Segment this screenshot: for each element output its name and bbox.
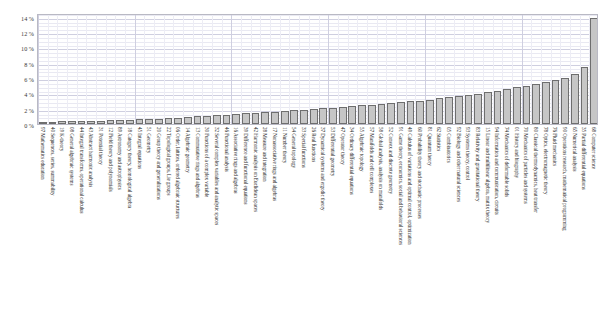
x-axis-tick: 51 Geometry (143, 127, 153, 320)
bar (261, 112, 269, 124)
x-axis-tick: 32 Several complex variables and analyti… (211, 127, 221, 320)
x-axis-tick: 68 Computer science (588, 127, 598, 320)
bar (552, 80, 560, 124)
bar (561, 78, 569, 124)
x-axis-tick: 20 Group theory and generalizations (153, 127, 163, 320)
x-axis-tick-label: 20 Group theory and generalizations (155, 127, 160, 200)
bar (339, 107, 347, 124)
bar (542, 82, 550, 124)
x-axis-tick: 06 Order, lattices, ordered algebraic st… (172, 127, 182, 320)
x-axis-tick: 26 Real functions (308, 127, 318, 320)
x-axis-tick-label: 94 Information and communication, circui… (494, 127, 499, 215)
x-axis-tick: 94 Information and communication, circui… (492, 127, 502, 320)
bar (523, 86, 531, 124)
bar (329, 108, 337, 124)
x-axis-tick-label: 80 Classical thermodynamics, heat transf… (532, 127, 537, 213)
x-axis-tick-label: 17 Nonassociative rings and algebras (271, 127, 276, 201)
x-axis-tick: 39 Difference and functional equations (240, 127, 250, 320)
bar (232, 114, 240, 124)
plot-area (37, 14, 598, 125)
x-axis-tick-label: 51 Geometry (146, 127, 151, 153)
x-axis-tick-label: 28 Measure and integration (262, 127, 267, 182)
bar (290, 110, 298, 124)
x-axis-tick-label: 83 Relativity and gravitational theory (474, 127, 479, 202)
bar (484, 92, 492, 124)
y-axis-tick-label: 0 % (24, 122, 34, 129)
y-axis-tick-label: 6 % (24, 76, 34, 83)
x-axis-tick: 89 Astronomy and astrophysics (114, 127, 124, 320)
y-axis: 0 %2 %4 %6 %8 %10 %12 %14 % (0, 0, 37, 139)
x-axis-tick-label: 43 Abstract harmonic analysis (87, 127, 92, 187)
bar (155, 119, 163, 125)
x-axis-tick-label: 57 Manifolds and cell complexes (368, 127, 373, 193)
bar (474, 94, 482, 124)
x-axis-tick: 15 Linear and multilinear algebra, matri… (482, 127, 492, 320)
x-axis-tick: 47 Operator theory (337, 127, 347, 320)
x-axis-tick: 43 Abstract harmonic analysis (85, 127, 95, 320)
x-axis-tick-label: 08 General algebraic systems (68, 127, 73, 185)
x-axis-tick: 11 Number theory (279, 127, 289, 320)
x-axis-tick-label: 53 Differential geometry (329, 127, 334, 176)
bar (445, 97, 453, 124)
x-axis-tick: 30 Functions of a complex variable (201, 127, 211, 320)
x-axis-tick-label: 13 Commutative rings and algebras (194, 127, 199, 198)
bar (407, 101, 415, 124)
bar (455, 96, 463, 124)
x-axis-tick-label: 54 General topology (291, 127, 296, 168)
bar (532, 84, 540, 124)
x-axis-tick-label: 49 Calculus of variations and optimal co… (407, 127, 412, 245)
x-axis-tick-label: 18 Category theory, homological algebra (126, 127, 131, 208)
x-axis-tick-label: 15 Linear and multilinear algebra, matri… (484, 127, 489, 223)
x-axis-tick-label: 46 Functional analysis (223, 127, 228, 172)
x-axis-tick: 18 Category theory, homological algebra (124, 127, 134, 320)
x-axis-tick: 53 Differential geometry (327, 127, 337, 320)
x-axis-tick: 92 Biology and other natural sciences (453, 127, 463, 320)
x-axis-tick: 34 Ordinary differential equations (347, 127, 357, 320)
x-axis-tick-label: 74 Mechanics of deformable solids (503, 127, 508, 197)
bar (465, 95, 473, 124)
x-axis-tick-label: 81 Quantum theory (426, 127, 431, 166)
x-axis-tick-label: 76 Fluid mechanics (552, 127, 557, 166)
bar (87, 121, 95, 124)
bar (145, 119, 153, 124)
x-axis-tick: 28 Measure and integration (259, 127, 269, 320)
bar (397, 102, 405, 124)
bar (571, 74, 579, 124)
x-axis-tick-label: 90 Operations research, mathematical pro… (561, 127, 566, 231)
x-axis-tick-label: 65 Numerical analysis (571, 127, 576, 172)
x-axis-tick-label: 55 Algebraic topology (358, 127, 363, 172)
x-axis-tick-label: 11 Number theory (281, 127, 286, 163)
x-axis-tick-label: 45 Integral equations (136, 127, 141, 169)
x-axis-tick: 54 General topology (288, 127, 298, 320)
bar (378, 104, 386, 124)
y-axis-tick-label: 10 % (21, 45, 34, 52)
bar-chart: 0 %2 %4 %6 %8 %10 %12 %14 % 97 Mathemati… (0, 0, 600, 322)
x-axis-tick: 37 Dynamical systems and ergodic theory (318, 127, 328, 320)
x-axis-tick: 35 Partial differential equations (579, 127, 589, 320)
bar (494, 91, 502, 124)
bars-layer (38, 15, 597, 124)
bar (513, 87, 521, 124)
bar (39, 122, 47, 124)
bar (136, 119, 144, 124)
bar (165, 118, 173, 124)
bar (49, 122, 57, 124)
x-axis-tick: 16 Associative rings and algebras (230, 127, 240, 320)
x-axis-tick-label: 44 Integral transforms, operational calc… (78, 127, 83, 214)
x-axis-tick-label: 47 Operator theory (339, 127, 344, 165)
x-axis-tick: 93 Systems theory, control (463, 127, 473, 320)
bar (503, 89, 511, 124)
x-axis-tick: 91 Game theory, economics, social and be… (395, 127, 405, 320)
bar (387, 103, 395, 124)
bar (310, 109, 318, 124)
x-axis-tick: 90 Operations research, mathematical pro… (559, 127, 569, 320)
x-axis-tick-label: 30 Functions of a complex variable (204, 127, 209, 197)
x-axis-tick-label: 42 Harmonic analysis on Euclidean spaces (252, 127, 257, 212)
x-axis-tick-label: 93 Systems theory, control (465, 127, 470, 180)
x-axis-tick: 12 Field theory and polynomials (105, 127, 115, 320)
bar (319, 108, 327, 124)
bar (126, 120, 134, 124)
bar (78, 121, 86, 124)
x-axis-tick-label: 58 Global analysis, analysis on manifold… (378, 127, 383, 210)
x-axis-tick: 60 Probability theory and stochastic pro… (414, 127, 424, 320)
